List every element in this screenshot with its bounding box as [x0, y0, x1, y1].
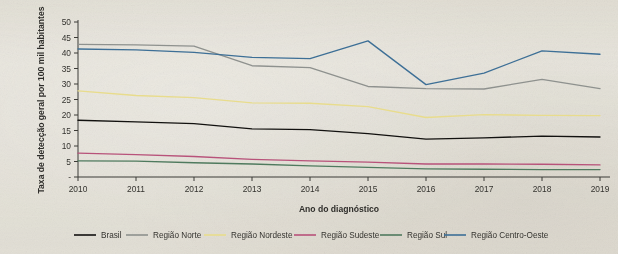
y-axis: -5101520253035404550	[62, 17, 78, 182]
series-line-regi-o-centro-oeste	[78, 41, 600, 85]
y-axis-tick-label: 40	[62, 48, 72, 58]
y-axis-tick-label: 15	[62, 126, 72, 136]
x-axis-title: Ano do diagnóstico	[299, 204, 379, 214]
legend-label-regi-o-norte: Região Norte	[153, 231, 202, 240]
legend-label-brasil: Brasil	[101, 231, 122, 240]
x-axis-tick-label: 2011	[127, 184, 145, 194]
legend-item-regi-o-sudeste[interactable]: Região Sudeste	[294, 231, 380, 240]
y-axis-tick-label: 10	[62, 141, 72, 151]
y-axis-tick-label: 20	[62, 110, 72, 120]
y-axis-tick-label: 45	[62, 33, 72, 43]
legend-label-regi-o-centro-oeste: Região Centro-Oeste	[471, 231, 549, 240]
x-axis-tick-label: 2015	[359, 184, 378, 194]
legend-label-regi-o-sudeste: Região Sudeste	[321, 231, 380, 240]
x-axis-tick-label: 2010	[69, 184, 88, 194]
legend-label-regi-o-sul: Região Sul	[407, 231, 447, 240]
x-axis-tick-label: 2013	[243, 184, 262, 194]
series-line-regi-o-nordeste	[78, 91, 600, 118]
legend-item-regi-o-sul[interactable]: Região Sul	[380, 231, 447, 240]
y-axis-tick-label: 5	[66, 157, 71, 167]
x-axis-tick-label: 2017	[475, 184, 494, 194]
series-line-brasil	[78, 120, 600, 139]
series-lines	[78, 41, 600, 170]
chart-legend: BrasilRegião NorteRegião NordesteRegião …	[74, 231, 549, 240]
x-axis-tick-label: 2014	[301, 184, 320, 194]
line-chart: -5101520253035404550 2010201120122013201…	[0, 0, 618, 254]
y-axis-tick-label: 50	[62, 17, 72, 27]
legend-item-regi-o-centro-oeste[interactable]: Região Centro-Oeste	[444, 231, 549, 240]
y-axis-tick-label: 30	[62, 79, 72, 89]
y-axis-tick-label: 35	[62, 64, 72, 74]
x-axis-tick-label: 2019	[591, 184, 610, 194]
legend-item-regi-o-nordeste[interactable]: Região Nordeste	[204, 231, 293, 240]
x-axis-tick-label: 2018	[533, 184, 552, 194]
x-axis-tick-label: 2012	[185, 184, 204, 194]
legend-item-brasil[interactable]: Brasil	[74, 231, 122, 240]
y-axis-title: Taxa de detecção geral por 100 mil habit…	[36, 6, 46, 193]
series-line-regi-o-sul	[78, 161, 600, 170]
y-axis-tick-label: 25	[62, 95, 72, 105]
legend-label-regi-o-nordeste: Região Nordeste	[231, 231, 293, 240]
x-axis-tick-label: 2016	[417, 184, 436, 194]
chart-figure: -5101520253035404550 2010201120122013201…	[0, 0, 618, 254]
axis-titles: Taxa de detecção geral por 100 mil habit…	[36, 6, 379, 214]
legend-item-regi-o-norte[interactable]: Região Norte	[126, 231, 202, 240]
series-line-regi-o-sudeste	[78, 153, 600, 165]
y-axis-tick-label: -	[68, 172, 71, 182]
x-axis: 2010201120122013201420152016201720182019	[69, 177, 610, 194]
